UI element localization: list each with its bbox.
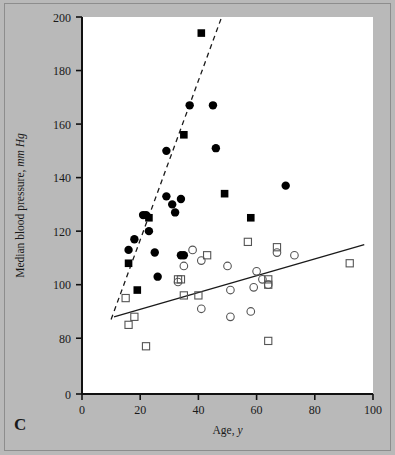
data-point-filled-circle [171, 208, 179, 216]
figure-panel-c: 080100120140160180200020406080100Age, yM… [0, 0, 395, 455]
data-point-filled-circle [212, 144, 220, 152]
y-axis-tick-label: 140 [53, 171, 71, 185]
x-axis-title: Age, y [212, 424, 243, 437]
data-point-filled-circle [209, 101, 217, 109]
x-axis-tick-label: 20 [134, 403, 146, 417]
data-point-filled-circle [145, 227, 153, 235]
data-point-filled-square [198, 29, 206, 37]
data-point-filled-square [180, 131, 188, 139]
y-axis-tick-label: 200 [53, 11, 71, 25]
data-point-filled-circle [162, 147, 170, 155]
data-point-filled-circle [151, 248, 159, 256]
y-axis-tick-label: 120 [53, 225, 71, 239]
y-axis-tick-label: 80 [59, 332, 71, 346]
y-axis-tick-label: 180 [53, 64, 71, 78]
data-point-filled-square [221, 190, 229, 198]
plot-background [82, 17, 373, 394]
panel-label: C [14, 415, 26, 435]
data-point-filled-circle [282, 181, 290, 189]
data-point-filled-circle [168, 200, 176, 208]
y-axis-tick-label: 100 [53, 278, 71, 292]
x-axis-tick-label: 0 [79, 403, 85, 417]
data-point-filled-circle [124, 246, 132, 254]
data-point-filled-circle [162, 192, 170, 200]
x-axis-tick-label: 100 [364, 403, 382, 417]
data-point-filled-circle [185, 101, 193, 109]
y-axis-tick-label: 0 [65, 388, 71, 402]
y-axis-tick-label: 160 [53, 118, 71, 132]
data-point-filled-square [247, 214, 255, 222]
x-axis-tick-label: 60 [251, 403, 263, 417]
data-point-filled-square [125, 259, 133, 267]
y-axis-title: Median blood pressure, mm Hg [14, 133, 27, 278]
x-axis-tick-label: 40 [192, 403, 204, 417]
data-point-filled-circle [153, 272, 161, 280]
data-point-filled-square [145, 214, 153, 222]
data-point-filled-square [133, 286, 141, 294]
data-point-filled-circle [130, 235, 138, 243]
data-point-filled-circle [180, 251, 188, 259]
x-axis-tick-label: 80 [309, 403, 321, 417]
scatter-plot: 080100120140160180200020406080100Age, yM… [0, 0, 395, 455]
data-point-filled-circle [177, 195, 185, 203]
